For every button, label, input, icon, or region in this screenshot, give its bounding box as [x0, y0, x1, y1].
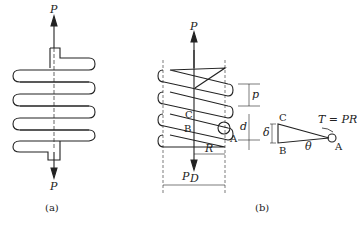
spring-diagram: P P (a) P P p d R D A B C (b) C B A [0, 0, 357, 227]
figure-a-spring [13, 16, 95, 178]
label-torque: T = PR [318, 113, 357, 126]
detail-triangle [270, 124, 336, 143]
label-b-a: A [229, 133, 238, 144]
label-theta: θ [305, 140, 312, 153]
caption-a: (a) [45, 202, 59, 213]
label-d: d [240, 120, 247, 133]
figure-b-spring [158, 32, 260, 195]
label-detail-c: C [279, 112, 287, 123]
label-b-b: B [184, 123, 191, 134]
label-big-d: D [189, 172, 199, 185]
label-detail-a: A [334, 141, 343, 152]
label-pitch: p [252, 88, 259, 101]
label-b-c: C [185, 109, 193, 120]
label-a-top-p: P [49, 3, 58, 16]
label-delta: δ [263, 126, 270, 139]
label-a-bottom-p: P [49, 180, 58, 193]
label-b-bottom-p: P [181, 170, 190, 183]
label-b-top-p: P [189, 20, 198, 33]
label-r: R [204, 142, 213, 155]
caption-b: (b) [255, 202, 269, 213]
label-detail-b: B [279, 145, 286, 156]
